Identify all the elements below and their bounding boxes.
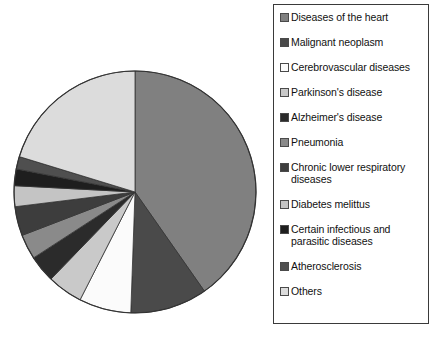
legend-item[interactable]: Cerebrovascular diseases	[280, 61, 424, 73]
legend-item[interactable]: Diabetes melittus	[280, 198, 424, 210]
legend-item-label: Others	[291, 285, 322, 297]
legend-swatch-icon	[280, 13, 289, 22]
legend-item[interactable]: Others	[280, 285, 424, 297]
pie-plot-area	[0, 28, 270, 328]
legend-item-label: Malignant neoplasm	[291, 36, 383, 48]
legend-item[interactable]: Alzheimer's disease	[280, 111, 424, 123]
legend-swatch-icon	[280, 287, 289, 296]
legend-item[interactable]: Parkinson's disease	[280, 86, 424, 98]
legend-item[interactable]: Diseases of the heart	[280, 11, 424, 23]
pie-svg	[0, 28, 270, 328]
legend-item-label: Pneumonia	[291, 136, 343, 148]
legend-item[interactable]: Chronic lower respiratory diseases	[280, 161, 424, 185]
legend-item-label: Atherosclerosis	[291, 260, 361, 272]
legend-swatch-icon	[280, 63, 289, 72]
legend-item[interactable]: Atherosclerosis	[280, 260, 424, 272]
legend-swatch-icon	[280, 88, 289, 97]
legend-swatch-icon	[280, 163, 289, 172]
legend-swatch-icon	[280, 262, 289, 271]
legend-item-label: Chronic lower respiratory diseases	[291, 161, 405, 185]
legend-item-label: Certain infectious and parasitic disease…	[291, 223, 390, 247]
legend-item[interactable]: Pneumonia	[280, 136, 424, 148]
legend-item[interactable]: Certain infectious and parasitic disease…	[280, 223, 424, 247]
legend-item-label: Diabetes melittus	[291, 198, 370, 210]
pie-chart-figure: Diseases of the heart Malignant neoplasm…	[0, 0, 443, 342]
legend-item-label: Parkinson's disease	[291, 86, 382, 98]
chart-legend: Diseases of the heart Malignant neoplasm…	[273, 4, 429, 324]
legend-item-label: Alzheimer's disease	[291, 111, 382, 123]
legend-swatch-icon	[280, 138, 289, 147]
legend-swatch-icon	[280, 38, 289, 47]
legend-item[interactable]: Malignant neoplasm	[280, 36, 424, 48]
legend-item-label: Diseases of the heart	[291, 11, 388, 23]
pie-slice-group	[14, 71, 256, 313]
legend-swatch-icon	[280, 225, 289, 234]
legend-swatch-icon	[280, 200, 289, 209]
legend-item-label: Cerebrovascular diseases	[291, 61, 410, 73]
legend-swatch-icon	[280, 113, 289, 122]
